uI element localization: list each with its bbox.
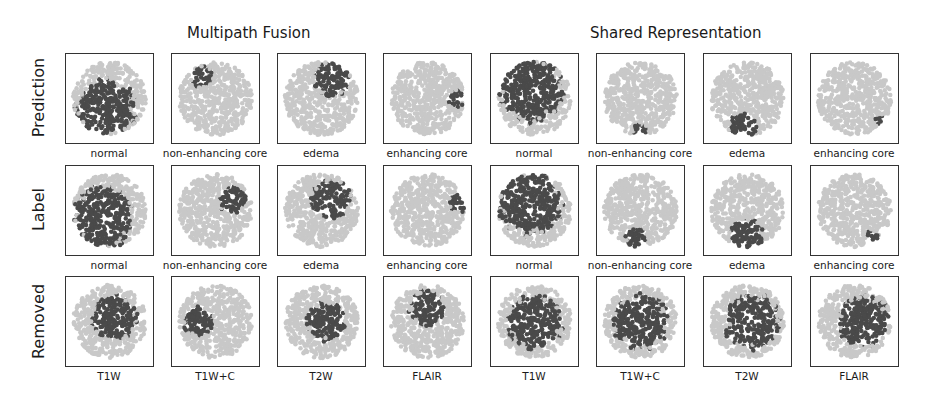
tsne-panel-mf-removed-0 — [65, 276, 154, 367]
tsne-panel-mf-prediction-3 — [383, 53, 472, 144]
scatter-plot — [491, 54, 578, 143]
scatter-plot — [384, 277, 471, 366]
scatter-plot — [597, 166, 684, 255]
tsne-panel-sr-label-0 — [490, 165, 579, 256]
tsne-panel-mf-label-3 — [383, 165, 472, 256]
tsne-panel-sr-prediction-3 — [810, 53, 899, 144]
tsne-panel-sr-label-3 — [810, 165, 899, 256]
row-label-prediction: Prediction — [29, 48, 48, 148]
tsne-panel-mf-removed-2 — [277, 276, 366, 367]
tsne-panel-mf-removed-3 — [383, 276, 472, 367]
tsne-panel-sr-removed-3 — [810, 276, 899, 367]
panel-caption: enhancing core — [789, 147, 919, 159]
scatter-plot — [704, 277, 791, 366]
scatter-plot — [172, 166, 259, 255]
scatter-plot — [384, 166, 471, 255]
tsne-panel-mf-label-0 — [65, 165, 154, 256]
scatter-plot — [278, 166, 365, 255]
tsne-panel-mf-prediction-1 — [171, 53, 260, 144]
tsne-panel-sr-label-2 — [703, 165, 792, 256]
tsne-panel-mf-prediction-2 — [277, 53, 366, 144]
row-label-removed: Removed — [29, 272, 48, 372]
scatter-plot — [384, 54, 471, 143]
scatter-plot — [491, 277, 578, 366]
tsne-panel-mf-label-1 — [171, 165, 260, 256]
scatter-plot — [172, 277, 259, 366]
scatter-plot — [66, 54, 153, 143]
scatter-plot — [811, 166, 898, 255]
tsne-panel-sr-removed-2 — [703, 276, 792, 367]
scatter-plot — [597, 54, 684, 143]
tsne-panel-mf-label-2 — [277, 165, 366, 256]
scatter-plot — [811, 277, 898, 366]
tsne-panel-sr-removed-0 — [490, 276, 579, 367]
group-title-shared-representation: Shared Representation — [590, 24, 762, 42]
scatter-plot — [597, 277, 684, 366]
scatter-plot — [66, 166, 153, 255]
group-title-multipath-fusion: Multipath Fusion — [187, 24, 311, 42]
scatter-plot — [278, 54, 365, 143]
row-label-label: Label — [29, 160, 48, 260]
scatter-plot — [278, 277, 365, 366]
tsne-panel-sr-prediction-1 — [596, 53, 685, 144]
scatter-plot — [704, 166, 791, 255]
scatter-plot — [66, 277, 153, 366]
tsne-panel-sr-removed-1 — [596, 276, 685, 367]
panel-caption: enhancing core — [789, 259, 919, 271]
scatter-plot — [811, 54, 898, 143]
tsne-panel-sr-prediction-0 — [490, 53, 579, 144]
tsne-panel-mf-removed-1 — [171, 276, 260, 367]
tsne-panel-mf-prediction-0 — [65, 53, 154, 144]
scatter-plot — [704, 54, 791, 143]
scatter-plot — [172, 54, 259, 143]
tsne-panel-sr-prediction-2 — [703, 53, 792, 144]
scatter-plot — [491, 166, 578, 255]
panel-caption: FLAIR — [789, 370, 919, 382]
tsne-panel-sr-label-1 — [596, 165, 685, 256]
